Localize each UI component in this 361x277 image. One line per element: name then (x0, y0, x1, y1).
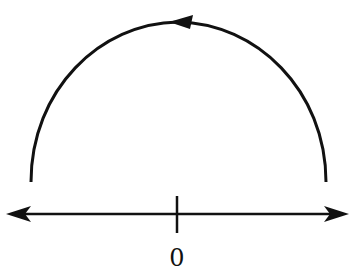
diagram-svg (0, 0, 361, 277)
arc-arrowhead-icon (169, 15, 193, 29)
origin-label: 0 (169, 246, 184, 270)
semicircle-arc (31, 22, 326, 182)
diagram-canvas: 0 (0, 0, 361, 277)
